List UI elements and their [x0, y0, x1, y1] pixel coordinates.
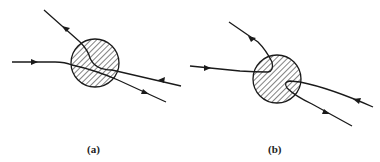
panel-b-label: (b)	[268, 143, 281, 155]
diagram-canvas	[0, 0, 380, 162]
panel-a-label: (a)	[87, 143, 100, 155]
arrow-right-icon	[204, 65, 211, 71]
arrow-down-right-icon	[141, 89, 149, 94]
scatterer-disk-a	[71, 39, 119, 87]
scatterer-disk-b	[253, 55, 301, 103]
panel-a	[12, 10, 181, 102]
panel-b	[190, 22, 373, 126]
arrow-up-left-icon	[248, 36, 256, 42]
arrow-right-icon	[31, 59, 38, 65]
arrow-left-icon	[353, 98, 361, 104]
arrow-up-left-icon	[62, 26, 70, 32]
